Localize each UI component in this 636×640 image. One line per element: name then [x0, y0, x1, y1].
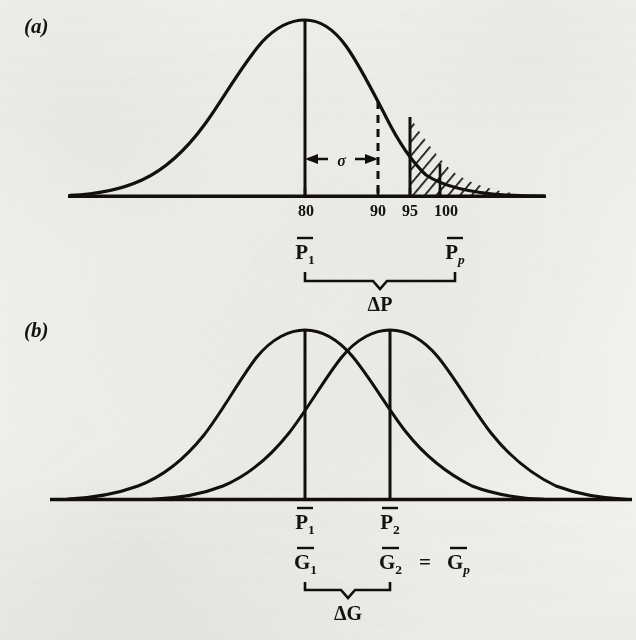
g1-label: G1: [294, 550, 317, 577]
p2-label-group-b: P2: [380, 508, 400, 537]
gp-label: Gp: [447, 550, 470, 577]
sigma-label: σ: [337, 152, 346, 169]
hatched-tail-region-a: [400, 100, 560, 200]
figure-root: (a) σ: [0, 0, 636, 640]
panel-a-label: (a): [24, 14, 49, 38]
p1-label: P1: [295, 240, 315, 267]
sigma-annotation-a: σ: [305, 148, 378, 170]
delta-p-brace-a: [305, 272, 455, 289]
p1-label-group-a: P1: [295, 238, 315, 267]
tick-label-80: 80: [298, 202, 314, 219]
gp-label-group-b: Gp: [447, 548, 470, 577]
p1-label-group-b: P1: [295, 508, 315, 537]
g1-label-group-b: G1: [294, 548, 317, 577]
panel-b: (b) P1 P2 G1: [24, 318, 632, 624]
delta-p-label: ΔP: [368, 293, 393, 315]
delta-g-brace-b: [305, 582, 390, 598]
sigma-arrowhead-right: [365, 154, 378, 164]
g2-label-group-b: G2: [379, 548, 402, 577]
panel-b-label: (b): [24, 318, 49, 342]
g2-label: G2: [379, 550, 402, 577]
equals-sign-b: =: [419, 550, 431, 574]
delta-g-label: ΔG: [334, 602, 363, 624]
sigma-arrowhead-left: [305, 154, 318, 164]
tick-label-95: 95: [402, 202, 418, 219]
tick-label-100: 100: [434, 202, 458, 219]
panel-a: (a) σ: [24, 14, 560, 315]
statistical-distribution-figure: (a) σ: [0, 0, 636, 640]
tick-label-90: 90: [370, 202, 386, 219]
bell-curve-a: [70, 20, 544, 196]
p1-label-b: P1: [295, 510, 315, 537]
pp-label-group-a: Pp: [445, 238, 465, 267]
pp-label: Pp: [445, 240, 465, 267]
p2-label-b: P2: [380, 510, 400, 537]
